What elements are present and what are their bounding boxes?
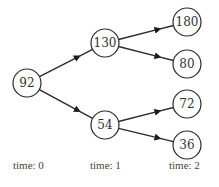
edge-line: [158, 57, 173, 61]
time-labels: time: 0 time: 1 time: 2: [13, 159, 200, 171]
time-label-1: time: 1: [90, 159, 121, 171]
edge-arrow: [119, 128, 158, 138]
edge-arrow: [119, 111, 159, 121]
edge-line: [78, 49, 93, 57]
tree-diagram: 9213054180807236 time: 0 time: 1 time: 2: [0, 0, 219, 187]
time-label-0: time: 0: [13, 159, 44, 171]
node-value: 36: [179, 138, 194, 152]
node-value: 180: [176, 15, 199, 29]
tree-node: 92: [13, 69, 41, 97]
tree-node: 54: [91, 111, 119, 139]
tree-node: 80: [173, 50, 201, 78]
tree-node: 130: [91, 29, 119, 57]
tree-node: 180: [173, 8, 201, 36]
edge-line: [158, 138, 173, 142]
tree-node: 36: [173, 131, 201, 159]
edge-line: [158, 25, 173, 29]
edge-line: [158, 107, 173, 111]
edge-line: [78, 110, 93, 118]
edge-arrow: [39, 57, 77, 77]
node-value: 54: [97, 118, 113, 132]
node-value: 130: [94, 36, 117, 50]
time-label-2: time: 2: [169, 159, 200, 171]
edge-arrow: [119, 29, 159, 39]
nodes: 9213054180807236: [13, 8, 201, 159]
edge-arrow: [39, 90, 77, 111]
node-value: 72: [179, 97, 194, 111]
node-value: 92: [19, 76, 34, 90]
edge-arrow: [119, 46, 159, 56]
node-value: 80: [179, 57, 194, 71]
tree-node: 72: [173, 90, 201, 118]
